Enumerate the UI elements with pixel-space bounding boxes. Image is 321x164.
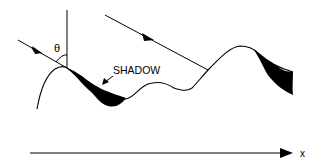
surface-profile xyxy=(37,46,293,109)
angle-label: θ xyxy=(54,42,60,54)
shadow-label: SHADOW xyxy=(113,64,160,76)
angle-arc xyxy=(56,55,67,62)
shadow-pointer-arrowhead xyxy=(102,78,109,85)
x-axis-arrowhead xyxy=(280,148,293,158)
shadow-region-right xyxy=(254,50,293,95)
shadowing-diagram: SHADOW θ x xyxy=(0,0,321,164)
incident-ray-right xyxy=(105,15,208,70)
x-axis-label: x xyxy=(300,148,305,159)
incident-ray-right-arrow xyxy=(142,33,154,41)
